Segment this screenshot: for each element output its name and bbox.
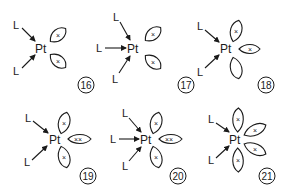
electron-mark: ×× xyxy=(165,136,173,143)
pt-center: Pt xyxy=(49,133,61,147)
ligand-label: L xyxy=(208,154,214,166)
orbital-lobe xyxy=(228,56,245,80)
electron-mark: × xyxy=(236,157,240,164)
figure-18: L L Pt × × 18 xyxy=(197,19,274,93)
ligand-label: L xyxy=(24,156,30,168)
electron-mark: × xyxy=(234,28,238,35)
ligand-label: L xyxy=(25,112,31,124)
figure-number: 17 xyxy=(180,80,192,91)
figure-number: 18 xyxy=(260,80,272,91)
ligand-arrow xyxy=(22,28,35,41)
pt-center: Pt xyxy=(127,42,139,56)
ligand-label: L xyxy=(13,19,19,31)
pt-center: Pt xyxy=(140,133,152,147)
electron-mark: × xyxy=(154,120,158,127)
ligand-arrow xyxy=(22,55,35,68)
figure-number: 16 xyxy=(80,80,92,91)
electron-mark: × xyxy=(62,154,66,161)
pt-center: Pt xyxy=(220,42,232,56)
figure-21: L L Pt × × × × 21 xyxy=(208,108,275,184)
electron-mark: × xyxy=(236,116,240,123)
ligand-label: L xyxy=(112,73,118,85)
ligand-arrow xyxy=(120,22,130,40)
electron-mark: × xyxy=(151,31,155,38)
figure-number: 19 xyxy=(82,171,94,182)
electron-mark: × xyxy=(56,32,60,39)
electron-mark: × xyxy=(253,146,257,153)
ligand-arrow xyxy=(216,123,229,132)
ligand-arrow xyxy=(129,147,141,161)
ligand-arrow xyxy=(33,121,48,133)
electron-mark: × xyxy=(253,127,257,134)
ligand-label: L xyxy=(208,113,214,125)
figure-17: L L L Pt × × 17 xyxy=(96,11,194,93)
ligand-label: L xyxy=(197,20,203,32)
ligand-arrow xyxy=(205,30,219,42)
figure-20: L L L Pt × ×× × 20 xyxy=(110,107,186,184)
ligand-label: L xyxy=(13,65,19,77)
ligand-label: L xyxy=(122,107,128,119)
electron-mark: × xyxy=(56,58,60,65)
ligand-label: L xyxy=(197,66,203,78)
ligand-label: L xyxy=(96,42,102,54)
electron-mark: × xyxy=(248,46,252,53)
figure-number: 20 xyxy=(172,171,184,182)
electron-mark: ×× xyxy=(74,136,82,143)
figure-16: L L Pt × × 16 xyxy=(13,19,94,93)
figure-number: 21 xyxy=(261,171,273,182)
ligand-label: L xyxy=(110,133,116,145)
ligand-arrow xyxy=(32,146,47,160)
ligand-label: L xyxy=(122,160,128,172)
pt-center: Pt xyxy=(35,42,47,56)
ligand-arrow xyxy=(129,118,141,132)
ligand-label: L xyxy=(113,11,119,23)
pt-center: Pt xyxy=(229,133,241,147)
orbital-diagram: L L Pt × × 16 L L L Pt × × 17 xyxy=(0,0,290,192)
electron-mark: × xyxy=(154,154,158,161)
figure-19: L L Pt × ×× × 19 xyxy=(24,111,96,184)
electron-mark: × xyxy=(62,120,66,127)
electron-mark: × xyxy=(151,59,155,66)
ligand-arrow xyxy=(216,146,229,158)
ligand-arrow xyxy=(119,56,130,73)
ligand-arrow xyxy=(205,55,219,68)
